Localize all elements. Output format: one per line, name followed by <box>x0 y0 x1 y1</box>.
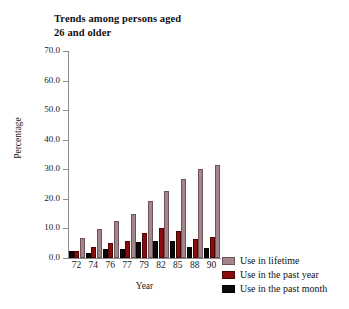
legend-item-label: Use in the past month <box>240 284 327 294</box>
bar-82-lifetime <box>164 191 169 258</box>
bar-85-pastyear <box>176 231 181 258</box>
bar-group-90 <box>204 51 220 258</box>
bar-79-lifetime <box>148 201 153 258</box>
bar-76-pastmonth <box>103 249 108 258</box>
bar-77-lifetime <box>131 214 136 258</box>
y-axis-tick-label: 70.0 <box>26 46 60 55</box>
y-axis-tick-label: 0.0 <box>26 253 60 262</box>
bar-77-pastyear <box>125 241 130 258</box>
y-axis-title: Percentage <box>13 98 23 178</box>
legend-item-pastmonth[interactable]: Use in the past month <box>222 282 348 295</box>
bar-group-82 <box>153 51 169 258</box>
bar-72-lifetime <box>80 238 85 258</box>
bar-77-pastmonth <box>120 249 125 258</box>
chart-figure: Trends among persons aged 26 and older P… <box>0 0 349 309</box>
bar-82-pastyear <box>159 228 164 258</box>
bar-72-pastmonth <box>69 251 74 258</box>
legend-item-lifetime[interactable]: Use in lifetime <box>222 254 348 267</box>
bar-79-pastyear <box>142 233 147 258</box>
chart-title-line-1: Trends among persons aged <box>54 13 181 24</box>
bar-76-lifetime <box>114 221 119 258</box>
legend-swatch-icon <box>222 257 235 265</box>
x-axis-title: Year <box>68 281 221 291</box>
bar-90-lifetime <box>215 165 220 258</box>
x-axis-tick-label: 90 <box>201 261 223 271</box>
bar-72-pastyear <box>74 251 79 258</box>
bar-82-pastmonth <box>153 241 158 258</box>
bar-group-72 <box>69 51 85 258</box>
y-axis-tick-label: 60.0 <box>26 76 60 85</box>
plot-area <box>68 51 220 258</box>
bar-88-pastyear <box>193 239 198 258</box>
bar-group-77 <box>120 51 136 258</box>
y-axis-tick <box>63 258 68 259</box>
bar-group-88 <box>187 51 203 258</box>
y-axis-tick-label: 20.0 <box>26 194 60 203</box>
bar-group-85 <box>170 51 186 258</box>
bar-85-pastmonth <box>170 241 175 258</box>
chart-title: Trends among persons aged 26 and older <box>54 12 234 40</box>
legend-item-label: Use in the past year <box>240 270 319 280</box>
bar-74-lifetime <box>97 229 102 258</box>
legend-item-label: Use in lifetime <box>240 256 299 266</box>
y-axis-tick-label: 50.0 <box>26 105 60 114</box>
y-axis-tick-label: 40.0 <box>26 135 60 144</box>
chart-legend: Use in lifetimeUse in the past yearUse i… <box>222 254 348 296</box>
bar-90-pastyear <box>210 237 215 258</box>
bar-74-pastyear <box>91 247 96 258</box>
legend-item-pastyear[interactable]: Use in the past year <box>222 268 348 281</box>
legend-swatch-icon <box>222 271 235 279</box>
y-axis-tick-label: 30.0 <box>26 164 60 173</box>
bar-88-lifetime <box>198 169 203 258</box>
bar-group-74 <box>86 51 102 258</box>
bar-79-pastmonth <box>136 242 141 258</box>
bar-88-pastmonth <box>187 247 192 258</box>
y-axis-tick-label: 10.0 <box>26 223 60 232</box>
bar-74-pastmonth <box>86 253 91 258</box>
legend-swatch-icon <box>222 285 235 293</box>
bar-group-79 <box>136 51 152 258</box>
bar-85-lifetime <box>181 179 186 258</box>
bar-76-pastyear <box>108 243 113 258</box>
bar-90-pastmonth <box>204 248 209 258</box>
chart-title-line-2: 26 and older <box>54 27 111 38</box>
bar-group-76 <box>103 51 119 258</box>
x-axis-line <box>68 258 221 259</box>
